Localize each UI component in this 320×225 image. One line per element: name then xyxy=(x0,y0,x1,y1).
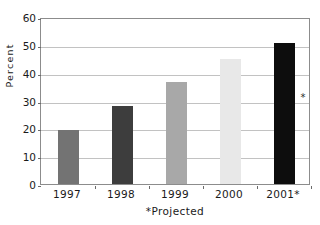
y-tick-mark xyxy=(38,158,41,159)
y-tick-label: 30 xyxy=(2,97,36,108)
gridline xyxy=(41,75,309,76)
bar-1998 xyxy=(112,106,133,184)
x-tick-label: 2000 xyxy=(199,188,259,200)
bar-chart-figure: Chart Percent 0102030405060 * 1997199819… xyxy=(0,0,320,225)
y-tick-mark xyxy=(38,47,41,48)
bar-2001-projected xyxy=(274,43,295,184)
y-tick-mark xyxy=(38,19,41,20)
y-tick-label: 40 xyxy=(2,69,36,80)
y-tick-label: 10 xyxy=(2,152,36,163)
y-tick-mark xyxy=(38,130,41,131)
gridline xyxy=(41,47,309,48)
x-tick-label: 1999 xyxy=(145,188,205,200)
bar-1999 xyxy=(166,82,187,184)
projected-asterisk-annotation: * xyxy=(301,93,306,103)
x-axis-title: *Projected xyxy=(40,205,310,217)
y-tick-label: 0 xyxy=(2,180,36,191)
y-tick-mark xyxy=(38,103,41,104)
y-tick-mark xyxy=(38,186,41,187)
y-tick-label: 20 xyxy=(2,124,36,135)
x-tick-label: 2001* xyxy=(253,188,313,200)
y-tick-label: 50 xyxy=(2,41,36,52)
bar-1997 xyxy=(58,130,79,184)
plot-area: * xyxy=(40,18,310,185)
y-tick-mark xyxy=(38,75,41,76)
y-tick-label: 60 xyxy=(2,13,36,24)
chart-title-cropped: Chart xyxy=(0,0,320,2)
x-tick-label: 1998 xyxy=(91,188,151,200)
x-tick-label: 1997 xyxy=(37,188,97,200)
bar-2000 xyxy=(220,59,241,184)
